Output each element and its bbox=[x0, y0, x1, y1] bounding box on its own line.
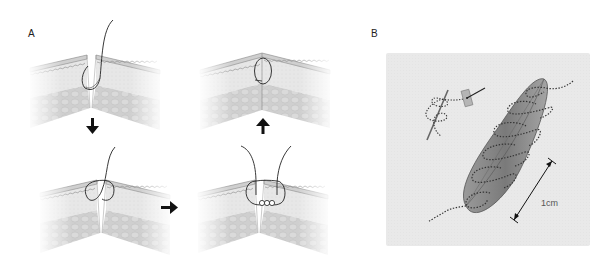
panel-b: 1cm bbox=[386, 53, 590, 246]
step-1-needle-through bbox=[28, 20, 164, 132]
scale-bar-label: 1cm bbox=[541, 198, 558, 208]
step-4-wound-closed bbox=[198, 48, 334, 132]
step-2-loop-formed bbox=[38, 147, 174, 257]
knot-icon bbox=[259, 200, 274, 205]
panel-a bbox=[28, 20, 334, 257]
figure-canvas: 1cm bbox=[0, 0, 612, 262]
step-3-knot-tied bbox=[196, 146, 332, 257]
